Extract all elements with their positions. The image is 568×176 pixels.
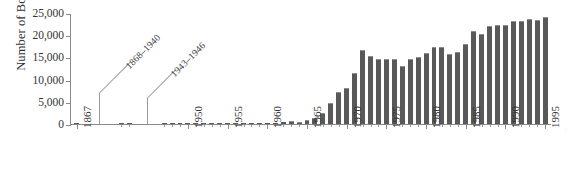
x-axis-tick-label: 1950 [192, 106, 204, 128]
edge-artifact: · [564, 126, 566, 134]
y-axis-tick-label: 5,000 [38, 97, 64, 108]
x-axis-tick-label: 1980 [430, 106, 442, 128]
x-axis-tick-label: 1955 [232, 106, 244, 128]
x-axis-tick-label: 1995 [549, 106, 561, 128]
x-axis-tick-label: 1965 [311, 106, 323, 128]
x-axis-tick-labels: 1867195019551960196519701975198019851990… [70, 126, 551, 176]
x-axis-tick-label: 1985 [470, 106, 482, 128]
gap-annotation-label: 1868–1940 [124, 32, 163, 71]
y-axis-tick-label: 0 [58, 119, 64, 130]
y-axis-tick-label: 10,000 [32, 75, 64, 86]
y-axis-tick-labels: 05,00010,00015,00020,00025,000 [10, 0, 64, 176]
y-axis-tick-label: 20,000 [32, 30, 64, 41]
x-axis-tick-label: 1990 [509, 106, 521, 128]
x-axis-tick-label: 1867 [81, 106, 93, 128]
x-axis-tick-label: 1960 [271, 106, 283, 128]
y-axis-tick-label: 25,000 [32, 8, 64, 19]
y-axis-tick-label: 15,000 [32, 52, 64, 63]
x-axis-tick-label: 1970 [351, 106, 363, 128]
x-axis-tick-label: 1975 [390, 106, 402, 128]
gap-annotation-label: 1943–1946 [169, 40, 208, 79]
chart-figure: Number of Boaters 05,00010,00015,00020,0… [0, 0, 568, 176]
gap-annotation-leader [99, 62, 131, 94]
gap-annotation-stem [147, 98, 148, 125]
gap-annotation-stem [99, 93, 100, 125]
